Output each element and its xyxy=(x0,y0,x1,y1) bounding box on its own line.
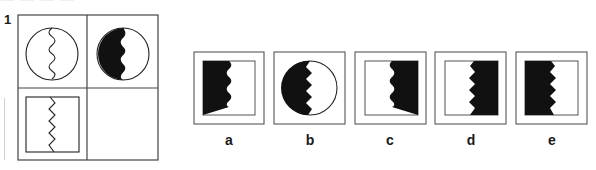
option-e-label[interactable]: e xyxy=(542,132,562,148)
option-d-figure[interactable] xyxy=(435,52,506,124)
option-b-label[interactable]: b xyxy=(300,132,320,148)
option-c-label[interactable]: c xyxy=(380,132,400,148)
matrix-cell-top-right xyxy=(97,28,149,80)
option-a-figure[interactable] xyxy=(194,52,264,124)
option-b-figure[interactable] xyxy=(274,52,345,124)
option-d-label[interactable]: d xyxy=(461,132,481,148)
puzzle-figure xyxy=(0,0,596,170)
option-e-figure[interactable] xyxy=(516,52,587,124)
black-fill-left xyxy=(98,28,125,80)
option-c-figure[interactable] xyxy=(355,52,426,124)
option-a-label[interactable]: a xyxy=(219,132,239,148)
matrix-cell-bottom-left xyxy=(26,97,79,152)
matrix-cell-top-left xyxy=(26,28,78,80)
